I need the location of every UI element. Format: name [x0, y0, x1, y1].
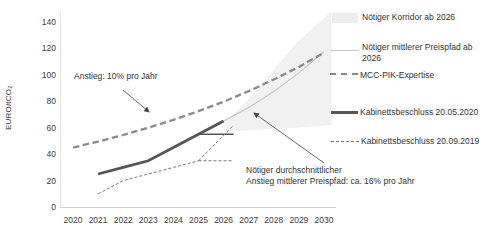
growth-10-arrow: [123, 90, 149, 112]
x-tick-label: 2028: [264, 215, 283, 225]
annotation-growth-16: Nötiger durchschnittlicher Anstieg mittl…: [246, 165, 415, 187]
annotation-growth-16-line2: Anstieg mittlerer Preispfad: ca. 16% pro…: [246, 176, 415, 187]
x-tick-label: 2020: [64, 215, 83, 225]
y-tick-label: 20: [47, 176, 57, 186]
y-tick-label: 0: [51, 202, 56, 212]
y-axis-title: EURO/tCO₂: [4, 60, 16, 156]
y-tick-label: 40: [47, 149, 57, 159]
x-tick-label: 2024: [164, 215, 183, 225]
x-tick-label: 2022: [114, 215, 133, 225]
plot-canvas: 0 20 40 60 80 100 120 140 2020 2021 2022…: [0, 0, 494, 235]
x-tick-label: 2023: [139, 215, 158, 225]
annotation-growth-16-line1: Nötiger durchschnittlicher: [246, 165, 415, 176]
co2-price-chart: 0 20 40 60 80 100 120 140 2020 2021 2022…: [0, 0, 494, 235]
x-tick-label: 2021: [89, 215, 108, 225]
x-tick-label: 2027: [239, 215, 258, 225]
x-tick-label: 2026: [214, 215, 233, 225]
x-tick-label: 2030: [315, 215, 334, 225]
kabinett-2020-line: [98, 121, 224, 174]
annotation-growth-10: Anstieg: 10% pro Jahr: [74, 71, 158, 82]
corridor-area: [224, 11, 332, 131]
x-tick-label: 2025: [189, 215, 208, 225]
y-tick-label: 120: [42, 43, 56, 53]
y-tick-label: 60: [47, 123, 57, 133]
x-tick-label: 2029: [289, 215, 308, 225]
y-tick-label: 140: [42, 17, 56, 27]
y-tick-label: 80: [47, 96, 57, 106]
kabinett-2019-line: [98, 161, 198, 194]
y-tick-label: 100: [42, 70, 56, 80]
